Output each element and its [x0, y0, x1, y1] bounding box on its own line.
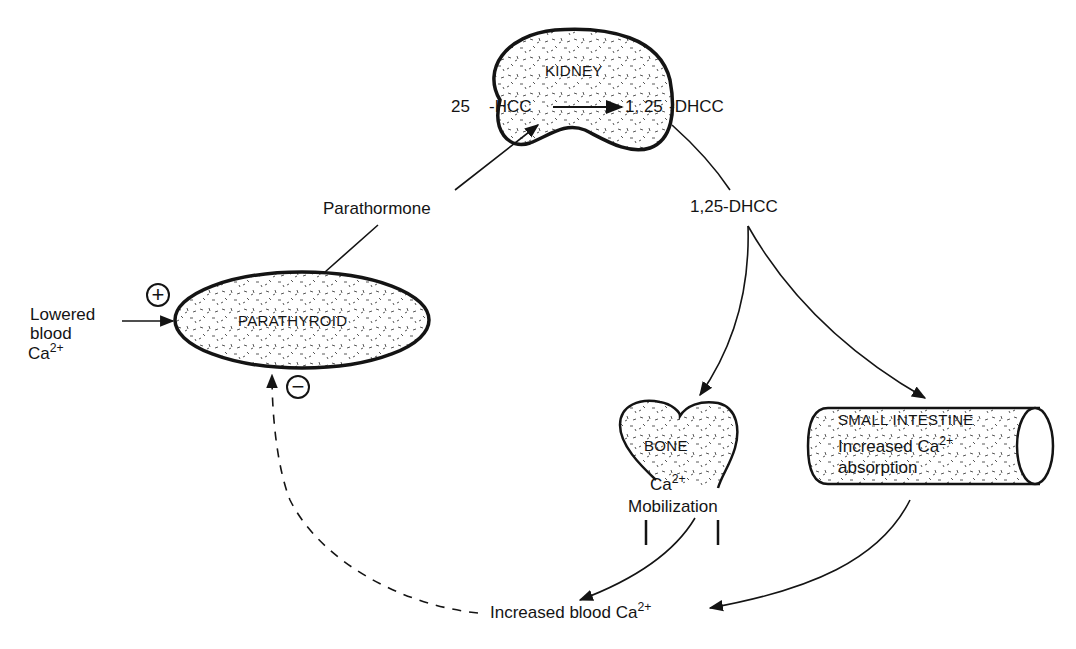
lowered-label-line2: blood: [30, 325, 72, 342]
bone-to-blood-arrow: [580, 518, 695, 600]
bone-label: BONE: [644, 438, 688, 453]
kidney-product-prefix: 1, 25: [625, 98, 663, 115]
increased-blood-label: Increased blood Ca2+: [490, 604, 651, 621]
positive-sign-icon: +: [146, 283, 170, 307]
dhcc-to-bone-arrow: [700, 226, 748, 395]
kidney-substrate: -HCC: [489, 98, 532, 115]
intestine-absorption-line2: absorption: [838, 459, 917, 476]
parathyroid-label: PARATHYROID: [238, 313, 347, 328]
kidney-prefix: 25: [451, 98, 470, 115]
kidney-to-dhcc-line: [672, 125, 730, 190]
intestine-opening: [1017, 408, 1053, 484]
lowered-label-line3: Ca2+: [28, 345, 64, 362]
kidney-product-suffix: -DHCC: [669, 98, 724, 115]
diagram-canvas: [0, 0, 1076, 649]
dhcc-to-intestine-arrow: [748, 226, 925, 398]
negative-sign-icon: −: [286, 375, 310, 399]
bone-mobilization-label: Mobilization: [628, 498, 718, 515]
intestine-absorption-line1: Increased Ca2+: [838, 438, 953, 455]
bone-ca-label: Ca2+: [650, 476, 686, 493]
parathormone-label: Parathormone: [323, 200, 431, 217]
intestine-to-blood-arrow: [710, 500, 910, 608]
intestine-label: SMALL INTESTINE: [838, 412, 974, 427]
dhcc-label: 1,25-DHCC: [690, 198, 778, 215]
negative-feedback-arrow: [272, 375, 478, 613]
kidney-label: KIDNEY: [545, 63, 603, 78]
kidney-shape: [494, 29, 673, 150]
lowered-label-line1: Lowered: [30, 306, 95, 323]
